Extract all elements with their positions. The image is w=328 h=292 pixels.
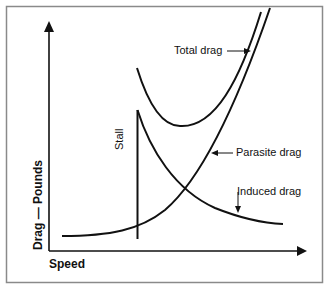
parasite-drag-label: Parasite drag bbox=[236, 146, 301, 158]
frame-border bbox=[7, 7, 323, 283]
stall-label: Stall bbox=[113, 129, 125, 150]
parasite-drag-arrow-icon bbox=[211, 150, 218, 156]
x-axis-label: Speed bbox=[49, 257, 85, 271]
x-axis-arrow-icon bbox=[297, 246, 307, 256]
induced-drag-arrow-icon bbox=[235, 206, 241, 213]
induced-drag-label: Induced drag bbox=[237, 185, 301, 197]
total-drag-curve bbox=[137, 12, 261, 126]
drag-vs-speed-diagram: Total drag Parasite drag Induced drag St… bbox=[0, 0, 328, 292]
total-drag-label: Total drag bbox=[174, 44, 222, 56]
induced-drag-curve bbox=[138, 110, 284, 224]
y-axis-label: Drag — Pounds bbox=[31, 160, 45, 250]
y-axis-arrow-icon bbox=[44, 21, 54, 32]
